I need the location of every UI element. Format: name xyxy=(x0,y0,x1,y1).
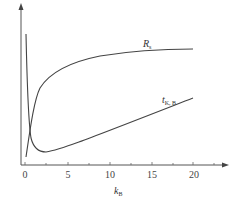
x-axis-label: kB xyxy=(114,185,122,197)
x-tick-label: 5 xyxy=(66,169,71,180)
x-tick-label: 10 xyxy=(105,169,115,180)
y-axis-arrow-icon xyxy=(19,3,24,10)
x-tick-label: 15 xyxy=(147,169,157,180)
tkb-label: tK, B xyxy=(162,94,176,106)
x-axis-arrow-icon xyxy=(222,163,229,168)
tkb-curve xyxy=(26,34,193,152)
x-tick-label: 0 xyxy=(23,169,28,180)
x-tick-label: 20 xyxy=(189,169,199,180)
chart: 0 5 10 15 20 kB Rs tK, B xyxy=(0,0,242,206)
rs-label: Rs xyxy=(142,38,152,50)
